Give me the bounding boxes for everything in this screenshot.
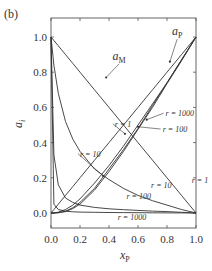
annotation-label: r = 1000 <box>118 213 147 222</box>
y-tick-label: 0.4 <box>33 137 47 149</box>
annotation-label: aM <box>113 49 126 65</box>
y-tick-label: 0.0 <box>33 207 47 219</box>
arrow-head-icon <box>102 175 104 177</box>
panel-label: (b) <box>4 7 18 21</box>
annotation-label: r = 1000 <box>166 109 195 118</box>
annotation-label: r = 1 <box>192 176 209 185</box>
y-tick-label: 0.2 <box>33 172 47 184</box>
x-tick-label: 0.2 <box>73 233 87 245</box>
annotation-label: r = 100 <box>163 125 188 134</box>
annotation-label: r = 100 <box>126 192 151 201</box>
annotation-label: r = 10 <box>80 150 101 159</box>
arrow-head-icon <box>124 133 126 135</box>
x-axis-label: xP <box>119 248 130 264</box>
x-tick-label: 0.6 <box>131 233 145 245</box>
annotation-label: aP <box>172 24 183 40</box>
x-tick-label: 1.0 <box>189 233 203 245</box>
arrow-head-icon <box>146 119 148 121</box>
y-axis-label: ai <box>11 120 27 128</box>
annotations: aMaPr = 1000r = 100r = 1r = 10r = 1r = 1… <box>78 24 208 222</box>
annotation-arrow <box>170 39 177 61</box>
x-tick-label: 0.8 <box>160 233 174 245</box>
arrow-head-icon <box>105 76 107 78</box>
annotation-arrow <box>147 113 164 120</box>
x-tick-label: 0.0 <box>44 233 58 245</box>
activity-chart: (b) 0.00.20.40.60.81.00.00.20.40.60.81.0… <box>0 0 212 271</box>
y-tick-label: 0.8 <box>33 66 47 78</box>
annotation-arrow <box>106 64 119 78</box>
y-tick-label: 0.6 <box>33 101 47 113</box>
arrow-head-icon <box>137 126 139 128</box>
annotation-label: r = 10 <box>151 181 172 190</box>
arrow-head-icon <box>169 61 171 63</box>
y-tick-label: 1.0 <box>33 31 47 43</box>
x-tick-label: 0.4 <box>102 233 116 245</box>
annotation-arrow <box>138 127 161 129</box>
